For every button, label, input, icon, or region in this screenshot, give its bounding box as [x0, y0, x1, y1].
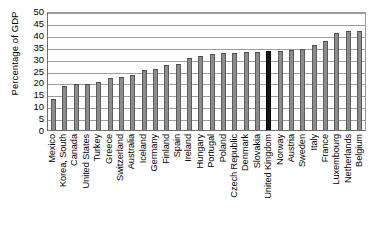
bar[interactable]	[334, 33, 339, 130]
bar-chart: Percentage of GDP 05101520253035404550 M…	[0, 0, 372, 242]
x-label-cell: Australia	[127, 132, 138, 240]
bar[interactable]	[130, 75, 135, 130]
x-label-cell: Slovakia	[252, 132, 263, 240]
bar[interactable]	[187, 58, 192, 130]
x-label-cell: Canada	[70, 132, 81, 240]
bar-cell	[48, 13, 59, 130]
bar[interactable]	[198, 56, 203, 130]
bar[interactable]	[142, 70, 147, 130]
x-label-cell: Iceland	[138, 132, 149, 240]
x-axis-tick-labels: MexicoKorea, SouthCanadaUnited StatesTur…	[47, 132, 366, 240]
bar[interactable]	[312, 45, 317, 130]
bar[interactable]	[346, 31, 351, 130]
bar[interactable]	[74, 84, 79, 130]
bar-cell	[252, 13, 263, 130]
y-tick-label: 5	[39, 114, 44, 124]
y-tick-label: 20	[33, 79, 44, 89]
bar-cell	[309, 13, 320, 130]
x-label-cell: United States	[81, 132, 92, 240]
plot-area	[47, 12, 366, 131]
x-tick-label: Netherlands	[344, 134, 353, 183]
bar-cell	[207, 13, 218, 130]
bar[interactable]	[108, 78, 113, 130]
bar[interactable]	[119, 77, 124, 130]
x-label-cell: Netherlands	[343, 132, 354, 240]
bar[interactable]	[232, 53, 237, 130]
x-label-cell: Sweden	[298, 132, 309, 240]
x-tick-label: Germany	[151, 134, 160, 172]
bar[interactable]	[62, 86, 67, 131]
x-tick-label: Austria	[287, 134, 296, 162]
bar-cell	[218, 13, 229, 130]
bar-cell	[297, 13, 308, 130]
y-tick-label: 35	[33, 43, 44, 53]
y-tick-label: 40	[33, 31, 44, 41]
x-label-cell: Finland	[161, 132, 172, 240]
bar-cell	[331, 13, 342, 130]
y-tick-label: 45	[33, 19, 44, 29]
x-tick-label: Mexico	[48, 134, 57, 163]
x-tick-label: Czech Republic	[230, 134, 239, 198]
x-tick-label: Slovakia	[253, 134, 262, 168]
bar[interactable]	[164, 65, 169, 130]
bar-cell	[184, 13, 195, 130]
bar-cell	[127, 13, 138, 130]
x-tick-label: Hungary	[196, 134, 205, 168]
bar[interactable]	[221, 53, 226, 130]
x-label-cell: Belgium	[355, 132, 366, 240]
x-label-cell: Luxembourg	[332, 132, 343, 240]
bar[interactable]	[153, 69, 158, 130]
bar[interactable]	[255, 52, 260, 130]
x-label-cell: Turkey	[93, 132, 104, 240]
x-label-cell: Switzerland	[115, 132, 126, 240]
bar-cell	[275, 13, 286, 130]
bar[interactable]	[266, 51, 271, 130]
bar[interactable]	[357, 31, 362, 130]
x-tick-label: Portugal	[208, 134, 217, 168]
x-label-cell: Greece	[104, 132, 115, 240]
bar-cell	[150, 13, 161, 130]
bar-cell	[173, 13, 184, 130]
x-tick-label: Luxembourg	[333, 134, 342, 185]
x-tick-label: Norway	[276, 134, 285, 165]
bar[interactable]	[300, 49, 305, 130]
y-tick-label: 10	[33, 102, 44, 112]
x-tick-label: Switzerland	[116, 134, 125, 181]
bar[interactable]	[96, 82, 101, 130]
x-label-cell: Austria	[286, 132, 297, 240]
x-tick-label: Belgium	[356, 134, 365, 167]
x-label-cell: Hungary	[195, 132, 206, 240]
x-label-cell: Germany	[150, 132, 161, 240]
x-label-cell: Mexico	[47, 132, 58, 240]
x-tick-label: Korea, South	[59, 134, 68, 187]
y-tick-label: 0	[39, 126, 44, 136]
bar[interactable]	[85, 84, 90, 130]
bar[interactable]	[210, 54, 215, 130]
bar[interactable]	[323, 41, 328, 130]
bar-cell	[263, 13, 274, 130]
x-tick-label: Denmark	[242, 134, 251, 171]
bar-cell	[354, 13, 365, 130]
bar-cell	[93, 13, 104, 130]
x-tick-label: Ireland	[185, 134, 194, 162]
x-tick-label: Greece	[105, 134, 114, 164]
bar[interactable]	[244, 52, 249, 130]
bar-cell	[286, 13, 297, 130]
y-tick-label: 15	[33, 91, 44, 101]
x-label-cell: Denmark	[241, 132, 252, 240]
x-label-cell: Poland	[218, 132, 229, 240]
bar-cell	[71, 13, 82, 130]
y-tick-label: 30	[33, 55, 44, 65]
x-label-cell: Portugal	[206, 132, 217, 240]
x-label-cell: United Kingdom	[263, 132, 274, 240]
bar[interactable]	[176, 64, 181, 130]
bar[interactable]	[278, 51, 283, 130]
bar[interactable]	[289, 50, 294, 130]
bar[interactable]	[51, 99, 56, 130]
y-axis-title: Percentage of GDP	[9, 0, 20, 114]
bar-cell	[241, 13, 252, 130]
bar-cell	[59, 13, 70, 130]
x-label-cell: Italy	[309, 132, 320, 240]
bar-cell	[195, 13, 206, 130]
x-tick-label: Canada	[71, 134, 80, 166]
